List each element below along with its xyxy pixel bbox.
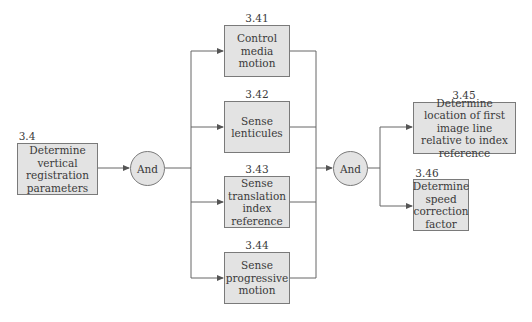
output-box-2: Determine speed correction factor [413, 179, 469, 231]
child-id-2: 3.42 [224, 88, 290, 100]
child-box-1: Control media motion [224, 25, 290, 77]
root-label: Determine vertical registration paramete… [20, 144, 95, 194]
and-gate-1-label: And [137, 163, 158, 175]
and-gate-2: And [333, 151, 368, 186]
child-box-2: Sense lenticules [224, 101, 290, 153]
and-gate-1: And [130, 151, 165, 186]
child-id-4: 3.44 [224, 239, 290, 251]
child-label-3: Sense translation index reference [227, 177, 287, 227]
child-box-3: Sense translation index reference [224, 176, 290, 228]
child-id-3: 3.43 [224, 163, 290, 175]
output-label-1: Determine location of first image line r… [416, 97, 513, 160]
and-gate-2-label: And [340, 163, 361, 175]
output-box-1: Determine location of first image line r… [413, 102, 516, 154]
output-label-2: Determine speed correction factor [413, 180, 469, 230]
child-id-1: 3.41 [224, 12, 290, 24]
child-label-2: Sense lenticules [227, 115, 287, 140]
root-box: Determine vertical registration paramete… [17, 143, 98, 195]
child-label-4: Sense progressive motion [226, 259, 288, 297]
child-box-4: Sense progressive motion [224, 252, 290, 304]
root-id: 3.4 [17, 130, 37, 142]
child-label-1: Control media motion [227, 32, 287, 70]
output-id-2: 3.46 [413, 167, 441, 179]
